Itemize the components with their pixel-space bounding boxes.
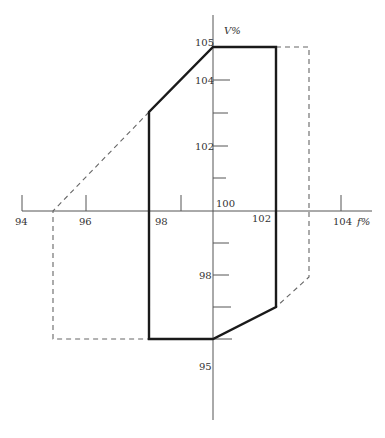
v-tick-label-102: 102 bbox=[195, 141, 214, 152]
f-tick-label-98: 98 bbox=[155, 216, 168, 227]
f-axis-label: f% bbox=[356, 216, 370, 227]
operating-region-diagram: V% f% 94 96 98 100 102 104 105 104 102 9… bbox=[0, 0, 385, 438]
v-tick-label-95: 95 bbox=[199, 361, 212, 372]
v-axis-ticks bbox=[213, 80, 232, 339]
f-tick-label-104: 104 bbox=[333, 216, 352, 227]
v-tick-label-105: 105 bbox=[195, 37, 214, 48]
v-tick-label-98: 98 bbox=[199, 270, 212, 281]
dashed-extension-right bbox=[276, 47, 309, 307]
f-tick-label-96: 96 bbox=[79, 216, 92, 227]
v-axis-label: V% bbox=[224, 25, 241, 36]
v-tick-label-104: 104 bbox=[195, 75, 214, 86]
f-tick-label-102: 102 bbox=[252, 213, 271, 224]
f-tick-label-94: 94 bbox=[15, 216, 28, 227]
f-tick-label-100: 100 bbox=[216, 198, 235, 209]
f-axis-ticks bbox=[22, 195, 341, 211]
dashed-extension-left bbox=[53, 112, 149, 339]
